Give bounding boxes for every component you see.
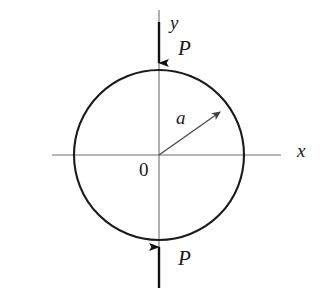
radius-label: a — [176, 108, 186, 127]
force-label-top: P — [178, 38, 191, 59]
x-axis-label: x — [297, 141, 305, 160]
circular-ring-diagram: y x 0 a P P — [0, 0, 327, 293]
y-axis-label: y — [170, 13, 178, 32]
origin-label: 0 — [139, 160, 149, 179]
force-label-bottom: P — [178, 248, 191, 269]
radius-vector-arrow — [159, 112, 220, 155]
diagram-canvas — [0, 0, 327, 293]
